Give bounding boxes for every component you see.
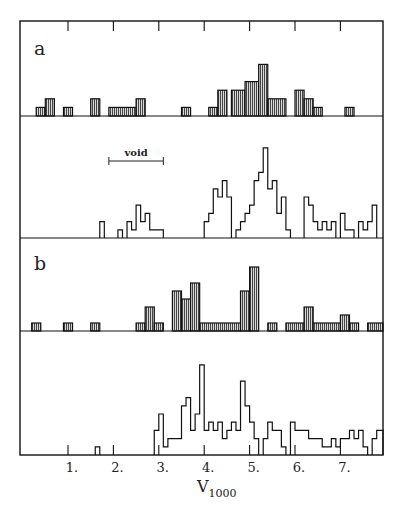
histogram-bar	[91, 323, 100, 331]
x-tick-label: 7.	[338, 460, 350, 475]
histogram-bar	[313, 107, 322, 116]
histogram-bar	[145, 307, 154, 331]
void-annotation: void	[109, 147, 163, 165]
histogram-bar	[231, 90, 245, 116]
x-axis-label: V1000	[196, 477, 237, 500]
x-tick-label: 6.	[293, 460, 305, 475]
histogram-bar	[218, 90, 227, 116]
histogram-outline	[95, 365, 383, 455]
histogram-bar	[182, 299, 191, 331]
histogram-bar	[245, 82, 259, 116]
histogram-bar	[313, 323, 340, 331]
histogram-bar	[136, 323, 145, 331]
histogram-bar	[286, 323, 304, 331]
histogram-bar	[182, 107, 191, 116]
x-tick-label: 2.	[111, 460, 123, 475]
histogram-bar	[200, 323, 241, 331]
x-tick-label: 5.	[247, 460, 259, 475]
histogram-bar	[63, 107, 72, 116]
histogram-bar	[340, 315, 349, 331]
histogram-bar	[32, 323, 41, 331]
histogram-bar	[63, 323, 72, 331]
svg-text:void: void	[123, 147, 147, 158]
histogram-bar	[172, 291, 181, 331]
histogram-bar	[368, 323, 383, 331]
histogram-bar	[191, 283, 200, 331]
x-axis-tick-labels: 1.2.3.4.5.6.7.	[66, 460, 351, 475]
histogram-bar	[349, 323, 358, 331]
histogram-panel-4	[95, 365, 383, 455]
plot-frame	[20, 21, 383, 455]
histogram-bar	[259, 64, 268, 116]
histogram-bar	[345, 107, 354, 116]
histogram-bar	[91, 99, 100, 116]
histogram-bar	[136, 99, 145, 116]
histogram-figure: abvoid 1.2.3.4.5.6.7. V1000	[0, 0, 405, 514]
histogram-bar	[268, 99, 286, 116]
histogram-bar	[250, 267, 259, 331]
x-tick-label: 4.	[202, 460, 214, 475]
histogram-panel-1: a	[34, 37, 354, 116]
histogram-bar	[109, 107, 136, 116]
x-tick-label: 3.	[157, 460, 169, 475]
panel-label: b	[34, 252, 46, 274]
histogram-panel-3: b	[32, 252, 383, 331]
x-tick-label: 1.	[66, 460, 78, 475]
histogram-bar	[36, 107, 45, 116]
histogram-bar	[154, 323, 163, 331]
histogram-bar	[304, 99, 313, 116]
histogram-bar	[268, 323, 277, 331]
histogram-bar	[304, 307, 313, 331]
panel-label: a	[34, 37, 45, 59]
histogram-bar	[45, 99, 54, 116]
histogram-bar	[241, 291, 250, 331]
histogram-bar	[209, 107, 218, 116]
histogram-bar	[295, 90, 304, 116]
